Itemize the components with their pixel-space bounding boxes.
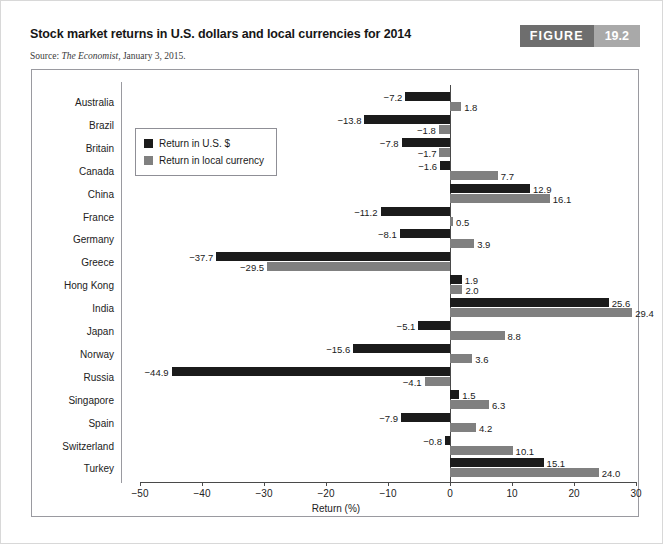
bar-value-label: −0.8 [423, 437, 442, 446]
chart-legend: Return in U.S. $ Return in local currenc… [135, 128, 277, 176]
legend-item-usd: Return in U.S. $ [144, 135, 264, 152]
bar-local-turkey [450, 468, 599, 477]
bar-row: China12.916.1 [32, 184, 640, 207]
category-label-singapore: Singapore [32, 395, 114, 406]
bar-row: Britain−7.8−1.7 [32, 138, 640, 161]
figure-badge-number: 19.2 [594, 25, 640, 47]
bar-row: Hong Kong1.92.0 [32, 275, 640, 298]
figure-badge-word: FIGURE [520, 25, 594, 47]
bar-local-spain [450, 423, 476, 432]
x-tick-label: 30 [616, 488, 656, 499]
bar-usd-britain [402, 138, 450, 147]
bar-value-label: 12.9 [533, 185, 552, 194]
bar-row: France−11.20.5 [32, 207, 640, 230]
bar-value-label: 29.4 [635, 309, 654, 318]
x-tick-label: 0 [430, 488, 470, 499]
bar-usd-canada [440, 161, 450, 170]
bar-local-switzerland [450, 446, 513, 455]
source-date: , January 3, 2015. [118, 51, 186, 61]
bar-row: Turkey15.124.0 [32, 458, 640, 481]
bar-value-label: 7.7 [501, 172, 514, 181]
x-tick-label: −20 [306, 488, 346, 499]
bar-local-greece [267, 262, 450, 271]
bar-value-label: −37.7 [189, 253, 213, 262]
x-tick [202, 482, 203, 486]
bar-usd-hong-kong [450, 275, 462, 284]
bar-value-label: −8.1 [378, 230, 397, 239]
x-tick [636, 482, 637, 486]
bar-usd-china [450, 184, 530, 193]
category-label-india: India [32, 303, 114, 314]
bar-usd-germany [400, 229, 450, 238]
x-tick-label: −40 [182, 488, 222, 499]
category-label-brazil: Brazil [32, 120, 114, 131]
bar-value-label: −4.1 [403, 378, 422, 387]
x-tick-label: −10 [368, 488, 408, 499]
source-publication: The Economist [61, 51, 118, 61]
bar-row: Brazil−13.8−1.8 [32, 115, 640, 138]
category-label-turkey: Turkey [32, 463, 114, 474]
bar-value-label: 1.9 [465, 276, 478, 285]
bar-usd-turkey [450, 458, 544, 467]
bar-local-brazil [439, 125, 450, 134]
bar-local-russia [425, 377, 450, 386]
bar-usd-norway [353, 344, 450, 353]
legend-label-local: Return in local currency [159, 155, 264, 166]
bar-usd-japan [418, 321, 450, 330]
category-label-russia: Russia [32, 372, 114, 383]
figure-header: Stock market returns in U.S. dollars and… [1, 1, 663, 69]
bar-local-india [450, 308, 632, 317]
bar-usd-switzerland [445, 436, 450, 445]
bar-row: Switzerland−0.810.1 [32, 436, 640, 459]
chart-frame: Australia−7.21.8Brazil−13.8−1.8Britain−7… [31, 69, 639, 517]
source-note: Source: The Economist, January 3, 2015. [30, 51, 186, 61]
bar-value-label: 25.6 [612, 299, 631, 308]
bar-value-label: −1.8 [417, 126, 436, 135]
bar-value-label: −29.5 [240, 263, 264, 272]
legend-swatch-usd-icon [144, 139, 153, 148]
figure-badge: FIGURE 19.2 [520, 25, 640, 47]
bar-usd-russia [172, 367, 450, 376]
bar-value-label: 1.5 [462, 391, 475, 400]
bar-local-britain [439, 148, 450, 157]
x-tick [140, 482, 141, 486]
legend-label-usd: Return in U.S. $ [159, 138, 230, 149]
x-tick [450, 482, 451, 486]
category-label-germany: Germany [32, 234, 114, 245]
bar-local-japan [450, 331, 505, 340]
bar-value-label: 3.6 [475, 355, 488, 364]
bar-value-label: −7.9 [379, 414, 398, 423]
bar-value-label: −1.7 [418, 149, 437, 158]
bar-value-label: −1.6 [418, 162, 437, 171]
bar-value-label: 1.8 [464, 103, 477, 112]
bar-row: Australia−7.21.8 [32, 92, 640, 115]
bar-row: Russia−44.9−4.1 [32, 367, 640, 390]
category-label-greece: Greece [32, 257, 114, 268]
category-label-hong-kong: Hong Kong [32, 280, 114, 291]
legend-item-local: Return in local currency [144, 152, 264, 169]
category-label-norway: Norway [32, 349, 114, 360]
bar-value-label: −7.8 [380, 139, 399, 148]
x-tick [388, 482, 389, 486]
bar-value-label: 15.1 [547, 459, 566, 468]
bar-usd-spain [401, 413, 450, 422]
bar-usd-france [381, 207, 450, 216]
bar-row: Canada−1.67.7 [32, 161, 640, 184]
page-title: Stock market returns in U.S. dollars and… [30, 27, 411, 41]
category-label-spain: Spain [32, 418, 114, 429]
bar-usd-greece [216, 252, 450, 261]
bar-local-canada [450, 171, 498, 180]
bar-value-label: 24.0 [602, 469, 621, 478]
x-axis-label: Return (%) [32, 503, 640, 514]
bar-value-label: −15.6 [326, 345, 350, 354]
bar-chart-plot: Australia−7.21.8Brazil−13.8−1.8Britain−7… [32, 70, 640, 518]
bar-value-label: 16.1 [553, 195, 572, 204]
x-tick-label: −30 [244, 488, 284, 499]
bar-usd-singapore [450, 390, 459, 399]
x-tick [574, 482, 575, 486]
category-label-australia: Australia [32, 97, 114, 108]
bar-value-label: −7.2 [384, 93, 403, 102]
bar-row: Singapore1.56.3 [32, 390, 640, 413]
bar-local-france [450, 217, 453, 226]
bar-row: India25.629.4 [32, 298, 640, 321]
